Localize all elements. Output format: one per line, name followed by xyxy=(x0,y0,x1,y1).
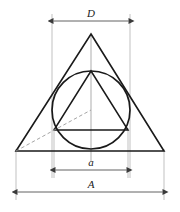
dimension-a-label: a xyxy=(88,156,94,168)
dimension-A: A xyxy=(18,178,163,192)
dimension-D-label: D xyxy=(86,7,95,19)
technical-drawing-figure: D a A xyxy=(0,0,180,212)
dimension-D: D xyxy=(54,7,129,21)
dimension-A-label: A xyxy=(87,178,95,190)
outer-triangle xyxy=(16,34,164,151)
figure-canvas: D a A xyxy=(0,0,180,212)
extension-lines-group xyxy=(16,14,164,200)
dimension-a: a xyxy=(56,156,127,170)
